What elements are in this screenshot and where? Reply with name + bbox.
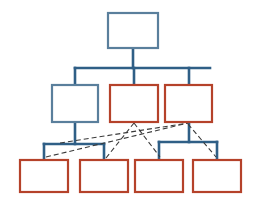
org-chart-canvas: [0, 0, 254, 213]
org-chart-diagram: [0, 0, 254, 213]
node-n2b[interactable]: [80, 160, 128, 192]
node-n1a[interactable]: [52, 85, 98, 122]
node-n2d[interactable]: [193, 160, 241, 192]
dashed-connector-d1: [46, 123, 188, 157]
node-n2a[interactable]: [20, 160, 68, 192]
node-box[interactable]: [110, 85, 158, 122]
dashed-connector-d4: [188, 124, 216, 157]
node-n1b[interactable]: [110, 85, 158, 122]
node-n1c[interactable]: [165, 85, 212, 122]
node-n0[interactable]: [108, 13, 158, 48]
node-layer: [20, 13, 241, 192]
node-box[interactable]: [52, 85, 98, 122]
node-box[interactable]: [165, 85, 212, 122]
node-box[interactable]: [193, 160, 241, 192]
dashed-connector-d2: [106, 123, 134, 158]
dashed-connector-layer: [46, 123, 216, 158]
node-n2c[interactable]: [135, 160, 183, 192]
node-box[interactable]: [20, 160, 68, 192]
node-box[interactable]: [135, 160, 183, 192]
dashed-connector-d5: [60, 123, 188, 143]
node-box[interactable]: [108, 13, 158, 48]
node-box[interactable]: [80, 160, 128, 192]
